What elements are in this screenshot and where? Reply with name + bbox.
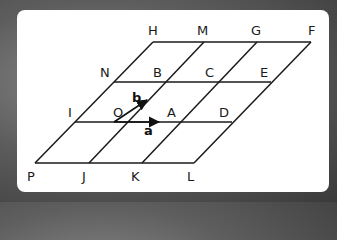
vector-label-a: a	[144, 123, 153, 138]
point-label-M: M	[197, 23, 208, 38]
point-label-A: A	[167, 105, 176, 120]
point-label-K: K	[131, 169, 140, 184]
point-label-P: P	[27, 169, 35, 184]
line-K-G	[142, 42, 257, 163]
point-label-F: F	[308, 23, 315, 38]
line-L-F	[194, 42, 311, 163]
point-label-C: C	[205, 65, 214, 80]
point-label-J: J	[81, 169, 86, 184]
vector-label-b: b	[132, 90, 141, 105]
point-label-E: E	[260, 65, 268, 80]
parallelogram-grid-diagram: H M G F N B C E I O A D P J K L b a	[0, 0, 337, 202]
point-label-L: L	[187, 169, 195, 184]
point-label-H: H	[148, 23, 158, 38]
point-label-D: D	[219, 105, 229, 120]
point-label-N: N	[100, 65, 110, 80]
point-label-I: I	[68, 105, 72, 120]
point-label-G: G	[251, 23, 261, 38]
point-label-O: O	[113, 105, 123, 120]
point-label-B: B	[153, 65, 162, 80]
line-J-M	[89, 42, 204, 163]
